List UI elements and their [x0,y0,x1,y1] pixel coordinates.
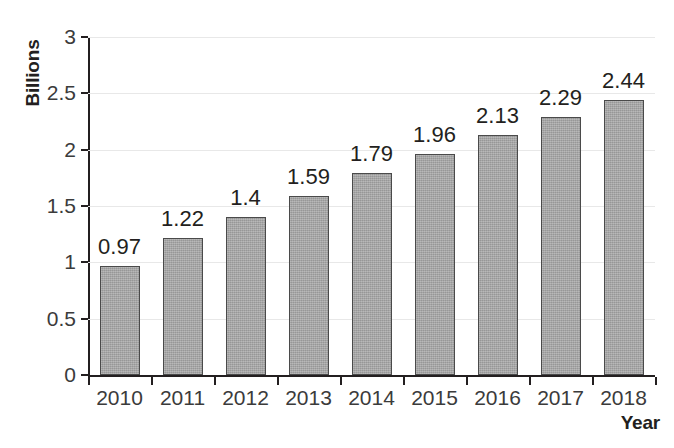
x-axis-tick-label: 2018 [600,386,647,410]
y-axis-tick-mark [81,36,88,38]
x-axis-tick-mark [466,377,468,385]
x-axis-tick-label: 2011 [160,386,205,410]
x-axis-tick-label: 2012 [222,386,269,410]
x-axis-tick-label: 2010 [96,386,143,410]
x-axis-title: Year [621,412,660,434]
bar[interactable] [352,173,392,375]
y-axis-tick-label: 1.5 [47,194,76,218]
x-axis-tick-label: 2016 [474,386,521,410]
y-axis-tick-mark [81,318,88,320]
bar[interactable] [541,117,581,375]
y-axis-tick-label: 1 [64,250,76,274]
bar[interactable] [478,135,518,375]
x-axis-tick-label: 2013 [285,386,332,410]
y-axis-tick-mark [81,205,88,207]
x-axis-tick-label: 2017 [537,386,584,410]
y-axis-tick-label: 2 [64,138,76,162]
bar-value-label: 2.29 [539,85,582,111]
x-axis-tick-mark [88,377,90,385]
y-axis-tick-label: 3 [64,25,76,49]
y-axis-tick-mark [81,261,88,263]
x-axis-tick-label: 2014 [348,386,395,410]
bar[interactable] [604,100,644,375]
bar-value-label: 0.97 [98,234,141,260]
y-axis-tick-label: 2.5 [47,81,76,105]
x-axis-tick-mark [403,377,405,385]
bar-value-label: 1.22 [161,206,204,232]
x-axis-tick-mark [151,377,153,385]
x-axis-tick-mark [655,377,657,385]
bar-value-label: 1.59 [287,164,330,190]
bar[interactable] [163,238,203,375]
bar-value-label: 2.44 [602,68,645,94]
y-axis-tick-mark [81,92,88,94]
plot-area: 00.511.522.53 0.971.221.41.591.791.962.1… [88,37,655,375]
bar-value-label: 1.96 [413,122,456,148]
bar-value-label: 1.79 [350,141,393,167]
y-axis-title: Billions [22,18,44,128]
y-axis-tick-mark [81,149,88,151]
bar-value-label: 2.13 [476,103,519,129]
x-axis-line [88,375,655,377]
x-axis-tick-mark [214,377,216,385]
gridline [88,37,655,38]
bar[interactable] [415,154,455,375]
y-axis-tick-label: 0 [64,363,76,387]
x-axis-tick-label: 2015 [411,386,458,410]
bar[interactable] [226,217,266,375]
x-axis-tick-mark [529,377,531,385]
x-axis-tick-mark [340,377,342,385]
bar-chart: Billions Year 00.511.522.53 0.971.221.41… [0,0,674,448]
bar[interactable] [289,196,329,375]
bar[interactable] [100,266,140,375]
bar-value-label: 1.4 [230,185,261,211]
y-axis-tick-label: 0.5 [47,307,76,331]
x-axis-tick-mark [277,377,279,385]
x-axis-tick-mark [592,377,594,385]
y-axis-tick-mark [81,374,88,376]
